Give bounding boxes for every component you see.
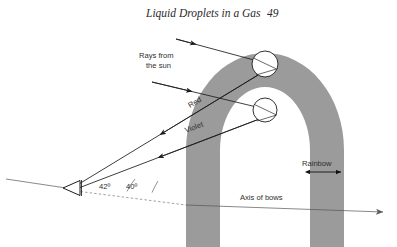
figure-page: Liquid Droplets in a Gas 49 xyxy=(0,0,397,247)
label-angle-42: 42º xyxy=(99,182,110,191)
label-rays-from-the-sun-line1: Rays from xyxy=(139,51,174,60)
label-angle-40: 40º xyxy=(126,182,137,191)
page-header-title: Liquid Droplets in a Gas xyxy=(145,7,261,20)
page-number: 49 xyxy=(267,7,279,19)
upper-droplet xyxy=(252,51,278,77)
label-axis-of-bows: Axis of bows xyxy=(240,193,283,202)
rainbow-diagram: Liquid Droplets in a Gas 49 xyxy=(0,0,397,247)
sun-ray-upper xyxy=(176,39,265,63)
label-rainbow: Rainbow xyxy=(302,159,332,168)
angle-arc-40 xyxy=(152,181,158,193)
incoming-axis-line xyxy=(6,179,66,188)
rainbow-arch-band xyxy=(186,53,344,247)
red-ray-path xyxy=(74,72,263,187)
violet-ray-path xyxy=(76,118,262,189)
observer-eye-icon xyxy=(63,180,82,196)
label-rays-from-the-sun-line2: the sun xyxy=(146,61,171,70)
lower-droplet xyxy=(253,98,277,122)
